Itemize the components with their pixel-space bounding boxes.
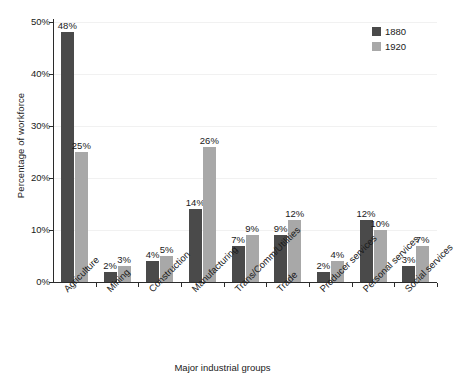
bar-value-label: 26% bbox=[200, 136, 219, 146]
bar-value-label: 2% bbox=[103, 261, 117, 271]
plot-area: 48%25%2%3%4%5%14%26%7%9%9%12%2%4%12%10%3… bbox=[53, 22, 437, 283]
y-tick-mark bbox=[49, 230, 53, 231]
bar-group: 4%5% bbox=[146, 22, 173, 282]
x-tick-mark bbox=[394, 283, 395, 287]
bar: 48% bbox=[61, 32, 74, 282]
bar-group: 14%26% bbox=[189, 22, 216, 282]
x-tick-mark bbox=[224, 283, 225, 287]
bar-value-label: 48% bbox=[58, 21, 77, 31]
y-tick-mark bbox=[49, 282, 53, 283]
y-tick-label: 50% bbox=[20, 17, 50, 27]
x-axis-title: Major industrial groups bbox=[0, 362, 445, 373]
bar-value-label: 3% bbox=[117, 255, 131, 265]
bar-group: 2%3% bbox=[104, 22, 131, 282]
legend: 18801920 bbox=[372, 25, 442, 55]
bar-value-label: 5% bbox=[160, 245, 174, 255]
y-tick-mark bbox=[49, 74, 53, 75]
y-tick-label: 0% bbox=[20, 277, 50, 287]
legend-item[interactable]: 1920 bbox=[372, 40, 442, 53]
bar-value-label: 10% bbox=[370, 219, 389, 229]
x-tick-mark bbox=[181, 283, 182, 287]
bar: 14% bbox=[189, 209, 202, 282]
y-tick-label: 20% bbox=[20, 173, 50, 183]
legend-swatch bbox=[372, 27, 381, 36]
bar-group: 7%9% bbox=[232, 22, 259, 282]
y-tick-label: 30% bbox=[20, 121, 50, 131]
legend-label: 1880 bbox=[385, 27, 406, 37]
y-tick-label: 40% bbox=[20, 69, 50, 79]
y-tick-label: 10% bbox=[20, 225, 50, 235]
bar-value-label: 4% bbox=[330, 250, 344, 260]
x-tick-mark bbox=[309, 283, 310, 287]
y-tick-mark bbox=[49, 178, 53, 179]
bar-group: 48%25% bbox=[61, 22, 88, 282]
x-tick-mark bbox=[352, 283, 353, 287]
x-tick-mark bbox=[437, 283, 438, 287]
bar-value-label: 12% bbox=[285, 209, 304, 219]
bar-value-label: 4% bbox=[146, 250, 160, 260]
y-axis-line bbox=[53, 19, 54, 283]
x-tick-mark bbox=[266, 283, 267, 287]
y-tick-mark bbox=[49, 126, 53, 127]
bar-value-label: 7% bbox=[231, 235, 245, 245]
legend-item[interactable]: 1880 bbox=[372, 25, 442, 38]
x-tick-mark bbox=[138, 283, 139, 287]
bar-value-label: 2% bbox=[316, 261, 330, 271]
legend-label: 1920 bbox=[385, 42, 406, 52]
bar-value-label: 9% bbox=[245, 224, 259, 234]
bar-value-label: 25% bbox=[72, 141, 91, 151]
bar-group: 2%4% bbox=[317, 22, 344, 282]
y-axis-tick-labels: 0%10%20%30%40%50% bbox=[16, 0, 50, 382]
legend-swatch bbox=[372, 42, 381, 51]
y-tick-mark bbox=[49, 22, 53, 23]
x-tick-mark bbox=[96, 283, 97, 287]
